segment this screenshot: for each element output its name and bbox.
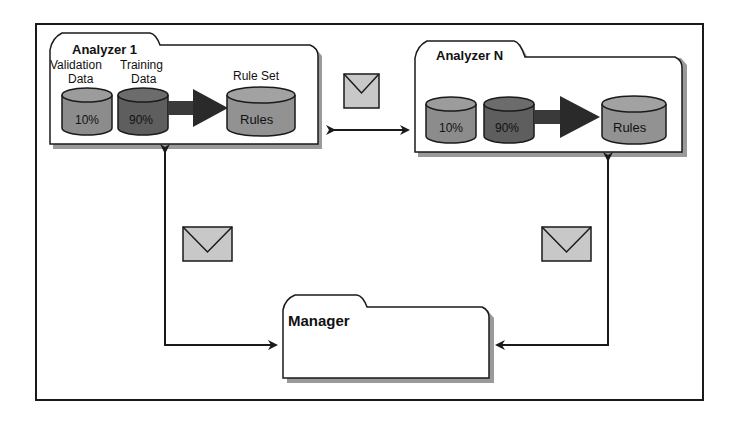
rule-set-cylinder: Rules <box>602 96 666 144</box>
training-label-line2: Data <box>131 72 157 86</box>
training-label-line1: Training <box>120 58 163 72</box>
validation-data-cylinder: 10% <box>426 97 476 143</box>
validation-percent: 10% <box>75 113 99 127</box>
manager-title: Manager <box>288 312 350 329</box>
rule-set-cylinder: Rules <box>227 87 295 136</box>
ruleset-label: Rule Set <box>233 69 280 83</box>
distributed-analyzer-diagram: Analyzer 1 Validation Data Training Data… <box>0 0 732 423</box>
rules-label: Rules <box>240 112 274 127</box>
training-percent: 90% <box>129 113 153 127</box>
folder-body <box>283 295 489 378</box>
rules-label: Rules <box>613 120 647 135</box>
validation-percent: 10% <box>439 121 463 135</box>
analyzer-1-folder: Analyzer 1 Validation Data Training Data… <box>50 33 322 149</box>
analyzer-n-title: Analyzer N <box>436 48 503 63</box>
envelope-icon <box>542 227 591 261</box>
envelope-icon <box>183 227 232 261</box>
manager-folder: Manager <box>283 295 494 383</box>
training-data-cylinder: 90% <box>484 97 534 143</box>
analyzer-n-folder: Analyzer N 10% 90% Rules <box>415 41 687 157</box>
envelope-icon <box>344 74 379 108</box>
validation-label-line1: Validation <box>50 58 102 72</box>
training-percent: 90% <box>495 121 519 135</box>
training-data-cylinder: 90% <box>118 88 168 135</box>
analyzer-1-title: Analyzer 1 <box>72 42 137 57</box>
validation-label-line2: Data <box>68 72 94 86</box>
validation-data-cylinder: 10% <box>62 88 112 135</box>
